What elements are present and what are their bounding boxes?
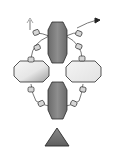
top-dark-subunit (48, 22, 67, 63)
left-light-subunit (14, 61, 49, 82)
right-light-subunit (66, 61, 101, 82)
diagram-canvas (0, 0, 115, 151)
molecular-assembly-diagram (0, 0, 115, 151)
arrow-right-dark (95, 18, 100, 23)
bottom-dark-subunit (48, 82, 67, 119)
ligand-triangle (45, 128, 69, 146)
